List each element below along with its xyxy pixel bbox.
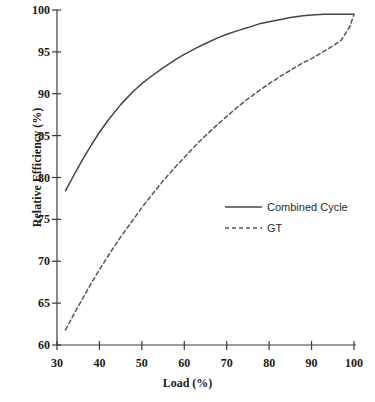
x-axis-tick-label: 40 [93,357,105,369]
x-axis-tick-label: 80 [263,357,275,369]
y-axis-tick-label: 65 [8,297,50,309]
series-line-gt [65,14,354,330]
y-axis-tick-label: 60 [8,339,50,351]
chart-figure: 6065707580859095100 30405060708090100 Re… [0,0,375,402]
y-axis-tick-label: 100 [8,4,50,16]
y-axis-tick-label: 95 [8,46,50,58]
data-series-group [65,14,354,330]
legend-label-gt: GT [267,222,282,234]
legend-line-samples [225,207,262,228]
x-axis-tick-label: 60 [178,357,190,369]
axis-lines [57,10,356,345]
x-axis-title: Load (%) [0,376,375,391]
x-axis-tick-label: 90 [306,357,318,369]
y-axis-title: Relative Efficiency (%) [30,68,45,268]
legend-label-combined-cycle: Combined Cycle [267,201,348,213]
series-line-combined-cycle [65,14,354,191]
x-axis-tick-label: 30 [51,357,63,369]
x-axis-tick-label: 100 [345,357,363,369]
x-axis-tick-label: 50 [136,357,148,369]
x-axis-tick-label: 70 [221,357,233,369]
